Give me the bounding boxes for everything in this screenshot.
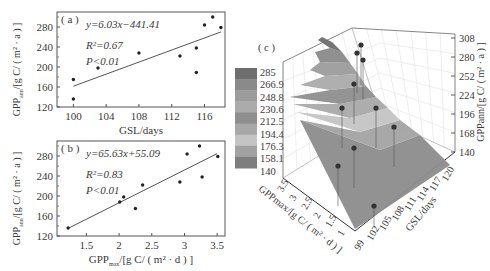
r-squared: R²=0.83 xyxy=(85,168,123,180)
colorbar-label: 230.6 xyxy=(260,104,284,115)
y-tick-label: 240 xyxy=(37,170,54,182)
x-axis-label: GPPmax/[g C/ ( m² · d ) ] xyxy=(89,253,193,267)
x-tick-label: 2.5 xyxy=(299,195,315,211)
x-tick-label: 1.5 xyxy=(80,239,94,251)
z-tick-label: 196 xyxy=(459,109,475,120)
grid-line xyxy=(380,43,455,54)
colorbar-swatch xyxy=(235,101,257,113)
data-point xyxy=(335,163,340,168)
grid-line xyxy=(411,31,423,137)
x-tick-label: 1.5 xyxy=(323,213,339,229)
data-point xyxy=(358,42,363,47)
colorbar-label: 176.3 xyxy=(260,141,284,152)
y-tick-label: 160 xyxy=(37,81,54,93)
data-point xyxy=(178,180,181,183)
z-axis-label: GPPann/[g C/ ( m² · a ) ] xyxy=(475,42,487,141)
y-tick-label: 280 xyxy=(37,21,54,33)
colorbar-swatch xyxy=(235,90,257,102)
y-axis-label: GPPann/[g C/ ( m² · a ) ] xyxy=(11,152,24,246)
y-axis-label: GPPann/[g C/ ( m² · a ) ] xyxy=(11,23,24,117)
colorbar-label: 140 xyxy=(260,166,276,177)
z-tick-label: 168 xyxy=(459,128,475,139)
data-point xyxy=(216,155,219,158)
colorbar-label: 248.8 xyxy=(260,92,284,103)
grid-line xyxy=(380,58,455,73)
y-tick-label: 200 xyxy=(37,61,54,73)
r-squared: R²=0.67 xyxy=(85,39,123,51)
y-tick-label: 120 xyxy=(37,230,54,242)
data-point xyxy=(195,71,198,74)
colorbar-swatch xyxy=(235,68,257,80)
data-point xyxy=(134,207,137,210)
y-tick-label: 200 xyxy=(37,190,54,202)
surface-band xyxy=(310,62,358,76)
data-point xyxy=(371,203,376,208)
x-tick-label: 112 xyxy=(164,110,180,122)
y-tick-label: 280 xyxy=(37,150,54,162)
colorbar-swatch xyxy=(235,112,257,124)
data-point xyxy=(72,97,75,100)
x-tick-label: 104 xyxy=(98,110,115,122)
regression-equation: y=6.03x−441.41 xyxy=(85,18,160,30)
x-tick-label: 116 xyxy=(196,110,213,122)
data-point xyxy=(178,54,181,57)
data-point xyxy=(195,46,198,49)
data-point xyxy=(118,200,121,203)
y-tick-label: 240 xyxy=(37,41,54,53)
x-tick-label: 2 xyxy=(116,239,122,251)
data-point xyxy=(339,105,344,110)
z-tick-label: 224 xyxy=(459,90,476,101)
data-point xyxy=(200,175,203,178)
x-tick-label: 3.5 xyxy=(210,239,224,251)
panel-label: ( b ) xyxy=(61,142,80,155)
colorbar-swatch xyxy=(235,157,257,169)
p-value: P<0.01 xyxy=(85,55,119,67)
panel-label: ( a ) xyxy=(61,13,79,26)
panel-a-scatter: 120160200240280100104108112116( a )y=6.0… xyxy=(11,12,225,136)
z-tick-label: 140 xyxy=(459,147,475,158)
panel-label: ( c ) xyxy=(258,42,275,54)
z-tick-label: 280 xyxy=(459,52,475,63)
data-point xyxy=(211,15,214,18)
regression-equation: y=65.63x+55.09 xyxy=(85,147,161,159)
y-tick-label: 160 xyxy=(37,210,54,222)
x-tick-label: 3 xyxy=(287,193,299,203)
x-tick-label: 2.5 xyxy=(145,239,159,251)
data-point xyxy=(354,50,359,55)
data-point xyxy=(141,183,144,186)
data-point xyxy=(203,23,206,26)
figure: 120160200240280100104108112116( a )y=6.0… xyxy=(0,0,490,271)
x-tick-label: 3.5 xyxy=(275,177,291,193)
z-tick-label: 308 xyxy=(459,33,475,44)
data-point xyxy=(137,51,140,54)
x-tick-label: 3 xyxy=(182,239,188,251)
data-point xyxy=(351,145,356,150)
x-tick-label: 108 xyxy=(131,110,148,122)
x-tick-label: 100 xyxy=(65,110,82,122)
panel-c-surface: 285266.9248.8230.6212.5194.4176.3158.114… xyxy=(235,28,487,256)
colorbar-swatch xyxy=(235,79,257,91)
colorbar-label: 285 xyxy=(260,67,276,78)
y-tick-label: 99 xyxy=(352,238,367,252)
data-point xyxy=(122,195,125,198)
colorbar-swatch xyxy=(235,135,257,147)
grid-line xyxy=(426,32,434,142)
colorbar-label: 212.5 xyxy=(260,116,284,127)
y-tick-label: 120 xyxy=(37,101,54,113)
surface-band xyxy=(315,48,350,63)
colorbar-swatch xyxy=(235,146,257,158)
data-point xyxy=(351,81,356,86)
data-point xyxy=(72,78,75,81)
data-point xyxy=(185,152,188,155)
colorbar-label: 266.9 xyxy=(260,79,284,90)
data-point xyxy=(391,124,396,129)
data-point xyxy=(373,105,378,110)
z-tick-label: 252 xyxy=(459,71,475,82)
data-point xyxy=(360,57,365,62)
panel-b-scatter: 1201602002402801.522.533.5( b )y=65.63x+… xyxy=(11,141,225,267)
data-point xyxy=(219,26,222,29)
x-axis-label: GSL/days xyxy=(119,124,163,136)
x-tick-label: 2 xyxy=(311,210,323,220)
colorbar-swatch xyxy=(235,124,257,136)
colorbar-label: 194.4 xyxy=(260,129,284,140)
